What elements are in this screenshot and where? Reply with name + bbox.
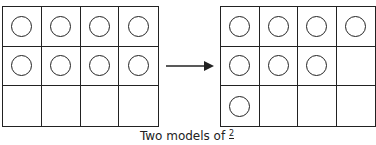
counter-circle-icon	[128, 55, 149, 76]
grid-cell	[3, 47, 42, 87]
grid-cell	[42, 86, 81, 126]
counter-circle-icon	[306, 16, 327, 37]
counter-circle-icon	[11, 16, 32, 37]
counter-circle-icon	[306, 55, 327, 76]
left-grid-model	[2, 6, 159, 127]
grid-cell	[119, 86, 158, 126]
grid-cell	[260, 7, 299, 47]
counter-circle-icon	[50, 55, 71, 76]
counter-circle-icon	[11, 55, 32, 76]
right-grid-model	[220, 6, 376, 127]
grid-cell	[337, 86, 376, 126]
grid-cell	[119, 7, 158, 47]
counter-circle-icon	[268, 16, 289, 37]
grid-cell	[42, 7, 81, 47]
grid-cell	[298, 86, 337, 126]
counter-circle-icon	[268, 55, 289, 76]
grid-cell	[337, 47, 376, 87]
grid-cell	[337, 7, 376, 47]
grid-cell	[3, 7, 42, 47]
grid-cell	[42, 47, 81, 87]
grid-cell	[298, 47, 337, 87]
counter-circle-icon	[229, 16, 250, 37]
grid-cell	[221, 7, 260, 47]
counter-circle-icon	[229, 96, 250, 117]
grid-cell	[260, 86, 299, 126]
caption: Two models of 2	[0, 129, 374, 143]
grid-cell	[81, 7, 120, 47]
grid-cell	[221, 86, 260, 126]
grid-cell	[81, 86, 120, 126]
grid-cell	[119, 47, 158, 87]
grid-cell	[3, 86, 42, 126]
counter-circle-icon	[229, 55, 250, 76]
counter-circle-icon	[50, 16, 71, 37]
counter-circle-icon	[345, 16, 366, 37]
counter-circle-icon	[128, 16, 149, 37]
counter-circle-icon	[89, 16, 110, 37]
caption-fraction: 2	[229, 130, 234, 139]
grid-cell	[221, 47, 260, 87]
counter-circle-icon	[89, 55, 110, 76]
grid-cell	[298, 7, 337, 47]
right-arrow-icon	[166, 60, 214, 72]
grid-cell	[260, 47, 299, 87]
grid-cell	[81, 47, 120, 87]
caption-text: Two models of	[140, 129, 229, 143]
